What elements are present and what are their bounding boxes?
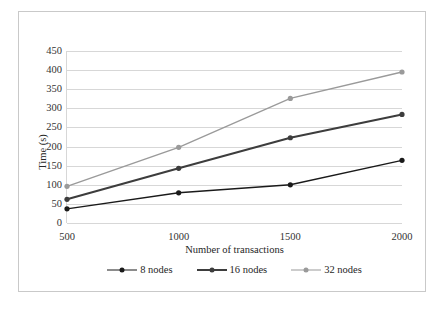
data-point [64, 184, 69, 189]
y-tick-label: 300 [46, 103, 62, 114]
data-point [288, 135, 293, 140]
x-tick-label: 1000 [168, 232, 189, 243]
legend-label: 16 nodes [230, 264, 268, 275]
y-tick-label: 400 [46, 65, 62, 76]
y-tick-label: 200 [46, 141, 62, 152]
data-point [176, 190, 181, 195]
legend-item-16-nodes[interactable]: 16 nodes [197, 264, 268, 275]
data-point [288, 96, 293, 101]
series-plot [67, 51, 402, 223]
y-tick-label: 100 [46, 180, 62, 191]
legend-item-32-nodes[interactable]: 32 nodes [291, 264, 362, 275]
legend-label: 8 nodes [140, 264, 172, 275]
y-tick-label: 0 [57, 218, 62, 229]
data-point [64, 197, 69, 202]
legend-item-8-nodes[interactable]: 8 nodes [107, 264, 172, 275]
x-tick-label: 500 [59, 232, 75, 243]
chart-legend: 8 nodes16 nodes32 nodes [67, 264, 402, 275]
data-point [176, 166, 181, 171]
data-point [176, 145, 181, 150]
x-tick-label: 1500 [280, 232, 301, 243]
data-point [288, 182, 293, 187]
y-tick-label: 250 [46, 122, 62, 133]
series-8-nodes [64, 158, 404, 212]
chart-figure: Time (s) 050100150200250300350400450 500… [18, 11, 426, 292]
x-axis-label: Number of transactions [67, 244, 402, 255]
series-line [67, 114, 402, 199]
gridline [67, 223, 402, 224]
y-tick-label: 50 [52, 199, 63, 210]
legend-swatch-icon [107, 265, 137, 274]
plot-area: 050100150200250300350400450 500100015002… [67, 51, 402, 223]
data-point [399, 158, 404, 163]
legend-label: 32 nodes [324, 264, 362, 275]
data-point [64, 206, 69, 211]
series-line [67, 72, 402, 186]
legend-swatch-icon [291, 265, 321, 274]
y-tick-label: 150 [46, 160, 62, 171]
data-point [399, 69, 404, 74]
y-tick-label: 350 [46, 84, 62, 95]
x-tick-label: 2000 [392, 232, 413, 243]
y-tick-label: 450 [46, 46, 62, 57]
legend-swatch-icon [197, 265, 227, 274]
data-point [399, 112, 404, 117]
